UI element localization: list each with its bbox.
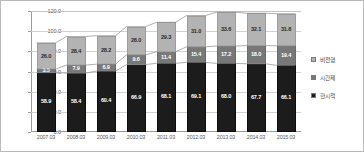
bar-segment[interactable]: 67.7: [247, 64, 266, 132]
x-tick-label: 2014.03: [241, 134, 271, 140]
bar-segment[interactable]: 32.1: [247, 13, 266, 45]
x-tick-label: 2009.03: [91, 134, 121, 140]
bar-segment[interactable]: 60.4: [97, 71, 116, 132]
bar-slot: 26.03.558.9: [31, 11, 61, 132]
x-tick-label: 2011.03: [151, 134, 181, 140]
x-tick-label: 2010.03: [121, 134, 151, 140]
legend-swatch-icon: [311, 93, 316, 98]
bar-value-label: 29.3: [161, 35, 171, 41]
bar-segment[interactable]: 33.6: [217, 12, 236, 46]
bar-value-label: 31.0: [191, 29, 201, 35]
bar-value-label: 19.4: [281, 53, 291, 59]
stacked-bar[interactable]: 26.03.558.9: [37, 43, 56, 132]
bar-value-label: 28.2: [101, 48, 111, 54]
bar-value-label: 6.9: [102, 65, 109, 71]
plot-area: 26.03.558.928.47.958.428.26.960.428.09.6…: [31, 11, 301, 132]
bar-value-label: 17.2: [221, 52, 231, 58]
legend-item[interactable]: 시간제: [311, 73, 334, 82]
bar-slot: 33.617.268.0: [211, 11, 241, 132]
chart-container: 120.0 100.0 80.0 60.0 40.0 20.0 0.0 26.0…: [0, 0, 364, 152]
bar-slot: 31.015.469.1: [181, 11, 211, 132]
bar-segment[interactable]: 28.0: [127, 27, 146, 55]
legend-swatch-icon: [311, 57, 316, 62]
bar-segment[interactable]: 68.0: [217, 63, 236, 132]
bar-value-label: 9.6: [132, 57, 139, 63]
bar-value-label: 11.4: [161, 55, 171, 61]
bar-value-label: 66.9: [131, 95, 141, 101]
bar-value-label: 33.6: [221, 27, 231, 33]
stacked-bar[interactable]: 28.09.666.9: [127, 27, 146, 132]
bar-segment[interactable]: 26.0: [37, 43, 56, 69]
bar-segment[interactable]: 18.0: [247, 46, 266, 64]
bar-segment[interactable]: 58.4: [67, 73, 86, 132]
legend-item[interactable]: 비전형: [311, 55, 334, 64]
bar-value-label: 7.9: [72, 66, 79, 72]
bar-segment[interactable]: 31.0: [187, 16, 206, 47]
bar-value-label: 58.4: [71, 99, 81, 105]
stacked-bar[interactable]: 32.118.067.7: [247, 13, 266, 132]
bar-value-label: 60.4: [101, 98, 111, 104]
bar-group: 26.03.558.928.47.958.428.26.960.428.09.6…: [31, 11, 301, 132]
x-tick-label: 2007.03: [31, 134, 61, 140]
bar-segment[interactable]: 28.4: [67, 37, 86, 66]
bar-slot: 28.09.666.9: [121, 11, 151, 132]
bar-segment[interactable]: 28.2: [97, 36, 116, 64]
legend-label: 시간제: [320, 73, 334, 82]
chart-legend: 비전형시간제한시적: [311, 55, 334, 100]
bar-slot: 28.47.958.4: [61, 11, 91, 132]
bar-value-label: 66.1: [281, 95, 291, 101]
bar-segment[interactable]: 9.6: [127, 55, 146, 65]
x-tick-label: 2012.03: [181, 134, 211, 140]
bar-value-label: 31.8: [281, 27, 291, 33]
bar-segment[interactable]: 68.1: [157, 63, 176, 132]
bar-segment[interactable]: 11.4: [157, 52, 176, 64]
stacked-bar[interactable]: 31.015.469.1: [187, 16, 206, 132]
y-tick-mark: [28, 132, 31, 133]
bar-value-label: 15.4: [191, 52, 201, 58]
bar-value-label: 32.1: [251, 27, 261, 33]
bar-segment[interactable]: 17.2: [217, 46, 236, 63]
stacked-bar[interactable]: 28.26.960.4: [97, 36, 116, 132]
bar-value-label: 26.0: [41, 54, 51, 60]
bar-segment[interactable]: 29.3: [157, 22, 176, 52]
bar-value-label: 67.7: [251, 95, 261, 101]
bar-segment[interactable]: 69.1: [187, 62, 206, 132]
x-axis: 2007.032008.032009.032010.032011.032012.…: [31, 134, 301, 140]
bar-value-label: 69.1: [191, 94, 201, 100]
bar-segment[interactable]: 7.9: [67, 65, 86, 73]
bar-slot: 31.819.466.1: [271, 11, 301, 132]
stacked-bar[interactable]: 31.819.466.1: [277, 14, 296, 132]
bar-segment[interactable]: 19.4: [277, 46, 296, 66]
x-tick-label: 2015.03: [271, 134, 301, 140]
bar-segment[interactable]: 6.9: [97, 64, 116, 71]
bar-value-label: 68.1: [161, 94, 171, 100]
legend-item[interactable]: 한시적: [311, 91, 334, 100]
stacked-bar[interactable]: 33.617.268.0: [217, 12, 236, 132]
bar-value-label: 68.0: [221, 94, 231, 100]
bar-segment[interactable]: 31.8: [277, 14, 296, 46]
legend-label: 한시적: [320, 91, 334, 100]
bar-slot: 28.26.960.4: [91, 11, 121, 132]
bar-segment[interactable]: 58.9: [37, 73, 56, 132]
legend-swatch-icon: [311, 75, 316, 80]
bar-value-label: 18.0: [251, 52, 261, 58]
bar-segment[interactable]: 15.4: [187, 47, 206, 63]
bar-value-label: 28.0: [131, 38, 141, 44]
x-tick-label: 2008.03: [61, 134, 91, 140]
bar-slot: 32.118.067.7: [241, 11, 271, 132]
stacked-bar[interactable]: 29.311.468.1: [157, 22, 176, 132]
stacked-bar[interactable]: 28.47.958.4: [67, 37, 86, 132]
bar-segment[interactable]: 66.1: [277, 65, 296, 132]
bar-segment[interactable]: 66.9: [127, 65, 146, 132]
legend-label: 비전형: [320, 55, 334, 64]
x-tick-label: 2013.03: [211, 134, 241, 140]
bar-value-label: 58.9: [41, 99, 51, 105]
bar-slot: 29.311.468.1: [151, 11, 181, 132]
bar-value-label: 28.4: [71, 49, 81, 55]
